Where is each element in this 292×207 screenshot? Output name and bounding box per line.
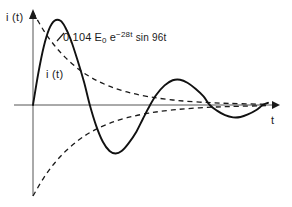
equation-coefficient: 0,104 <box>63 31 92 43</box>
lower-envelope-curve <box>33 106 268 196</box>
envelope-equation-label: 0,104E0e−28tsin 96t <box>63 31 167 45</box>
y-axis-arrow-icon <box>29 9 37 19</box>
t-axis <box>14 101 280 109</box>
equation-trig-term: sin 96t <box>136 32 167 43</box>
t-axis-label: t <box>271 115 274 126</box>
upper-envelope-curve <box>33 12 268 104</box>
current-curve-label: i (t) <box>46 69 63 80</box>
figure-container: i (t) t i (t) 0,104E0e−28tsin 96t <box>0 0 292 207</box>
equation-amplitude-subscript: 0 <box>102 36 107 45</box>
equation-amplitude-symbol: E <box>95 31 103 43</box>
equation-exp-exponent: −28t <box>116 30 133 39</box>
t-axis-arrow-icon <box>272 101 280 109</box>
y-axis-label: i (t) <box>6 12 23 23</box>
